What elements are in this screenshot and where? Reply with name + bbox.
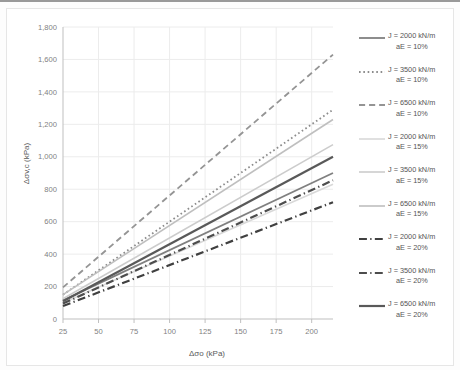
legend-label-line2: aE = 15% <box>388 176 435 187</box>
legend-label-line1: J = 2000 kN/m <box>388 232 435 241</box>
svg-text:125: 125 <box>199 327 212 336</box>
legend-label: J = 3500 kN/maE = 10% <box>388 65 435 86</box>
svg-text:200: 200 <box>305 327 318 336</box>
chart-legend: J = 2000 kN/maE = 10%J = 3500 kN/maE = 1… <box>359 31 460 333</box>
svg-text:50: 50 <box>94 327 102 336</box>
svg-text:600: 600 <box>44 217 57 226</box>
legend-label: J = 6500 kN/maE = 20% <box>388 299 435 320</box>
legend-item[interactable]: J = 2000 kN/maE = 20% <box>359 232 460 256</box>
legend-line-sample <box>359 300 385 312</box>
legend-label-line1: J = 3500 kN/m <box>388 266 435 275</box>
svg-text:1,400: 1,400 <box>38 88 57 97</box>
series-line <box>63 173 333 300</box>
legend-label: J = 6500 kN/maE = 10% <box>388 98 435 119</box>
legend-item[interactable]: J = 3500 kN/maE = 20% <box>359 266 460 290</box>
legend-label: J = 2000 kN/maE = 10% <box>388 31 435 52</box>
svg-text:0: 0 <box>53 315 57 324</box>
svg-text:1,600: 1,600 <box>38 55 57 64</box>
legend-line-sample <box>359 267 385 279</box>
x-axis-title: Δσo (kPa) <box>147 349 267 358</box>
svg-text:1,200: 1,200 <box>38 120 57 129</box>
figure-frame: 02004006008001,0001,2001,4001,6001,800 2… <box>0 0 460 370</box>
legend-label-line2: aE = 10% <box>388 42 435 53</box>
legend-label-line2: aE = 20% <box>388 243 435 254</box>
svg-text:100: 100 <box>163 327 176 336</box>
svg-text:175: 175 <box>270 327 283 336</box>
series-line <box>63 119 333 294</box>
legend-line-sample <box>359 99 385 111</box>
legend-item[interactable]: J = 6500 kN/maE = 10% <box>359 98 460 122</box>
svg-text:1,800: 1,800 <box>38 23 57 32</box>
series-line <box>63 157 333 301</box>
series-line <box>63 184 333 302</box>
legend-label-line1: J = 2000 kN/m <box>388 132 435 141</box>
legend-item[interactable]: J = 6500 kN/maE = 20% <box>359 299 460 323</box>
svg-text:200: 200 <box>44 282 57 291</box>
svg-text:800: 800 <box>44 185 57 194</box>
legend-label: J = 6500 kN/maE = 15% <box>388 199 435 220</box>
svg-text:1,000: 1,000 <box>38 152 57 161</box>
legend-line-sample <box>359 233 385 245</box>
legend-line-sample <box>359 32 385 44</box>
y-axis-title: Δσv,c (kPa) <box>22 119 31 209</box>
legend-label-line1: J = 3500 kN/m <box>388 165 435 174</box>
legend-label-line1: J = 6500 kN/m <box>388 98 435 107</box>
legend-line-sample <box>359 166 385 178</box>
legend-line-sample <box>359 66 385 78</box>
svg-text:400: 400 <box>44 250 57 259</box>
y-axis-tick-labels: 02004006008001,0001,2001,4001,6001,800 <box>38 23 57 324</box>
x-axis-tick-labels: 255075100125150175200 <box>59 327 318 336</box>
legend-label: J = 2000 kN/maE = 20% <box>388 232 435 253</box>
legend-item[interactable]: J = 3500 kN/maE = 10% <box>359 65 460 89</box>
legend-label: J = 3500 kN/maE = 20% <box>388 266 435 287</box>
series-line <box>63 55 333 288</box>
legend-item[interactable]: J = 2000 kN/maE = 15% <box>359 132 460 156</box>
svg-text:150: 150 <box>234 327 247 336</box>
legend-item[interactable]: J = 2000 kN/maE = 10% <box>359 31 460 55</box>
legend-label-line2: aE = 15% <box>388 209 435 220</box>
legend-label-line1: J = 3500 kN/m <box>388 65 435 74</box>
svg-text:25: 25 <box>59 327 67 336</box>
legend-label: J = 3500 kN/maE = 15% <box>388 165 435 186</box>
legend-label: J = 2000 kN/maE = 15% <box>388 132 435 153</box>
legend-label-line1: J = 6500 kN/m <box>388 199 435 208</box>
legend-label-line1: J = 6500 kN/m <box>388 299 435 308</box>
legend-label-line2: aE = 20% <box>388 276 435 287</box>
svg-text:75: 75 <box>130 327 138 336</box>
legend-label-line2: aE = 20% <box>388 310 435 321</box>
legend-label-line2: aE = 10% <box>388 109 435 120</box>
legend-label-line2: aE = 10% <box>388 75 435 86</box>
legend-item[interactable]: J = 6500 kN/maE = 15% <box>359 199 460 223</box>
legend-item[interactable]: J = 3500 kN/maE = 15% <box>359 165 460 189</box>
legend-line-sample <box>359 200 385 212</box>
legend-label-line1: J = 2000 kN/m <box>388 31 435 40</box>
chart-panel: 02004006008001,0001,2001,4001,6001,800 2… <box>6 8 454 366</box>
legend-line-sample <box>359 133 385 145</box>
legend-label-line2: aE = 15% <box>388 142 435 153</box>
